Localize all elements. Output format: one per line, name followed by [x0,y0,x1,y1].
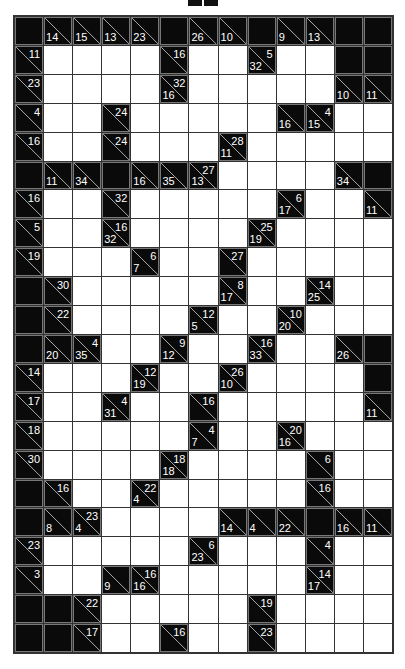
entry-cell[interactable] [102,508,130,536]
entry-cell[interactable] [335,364,363,392]
entry-cell[interactable] [131,422,159,450]
entry-cell[interactable] [131,306,159,334]
entry-cell[interactable] [335,190,363,218]
entry-cell[interactable] [160,566,188,594]
entry-cell[interactable] [189,219,217,247]
entry-cell[interactable] [277,248,305,276]
entry-cell[interactable] [131,393,159,421]
entry-cell[interactable] [277,277,305,305]
entry-cell[interactable] [189,595,217,623]
entry-cell[interactable] [44,133,72,161]
entry-cell[interactable] [248,162,276,190]
entry-cell[interactable] [277,46,305,74]
entry-cell[interactable] [44,566,72,594]
entry-cell[interactable] [219,480,247,508]
entry-cell[interactable] [131,75,159,103]
entry-cell[interactable] [131,219,159,247]
entry-cell[interactable] [248,104,276,132]
entry-cell[interactable] [248,566,276,594]
entry-cell[interactable] [44,46,72,74]
entry-cell[interactable] [335,566,363,594]
entry-cell[interactable] [335,480,363,508]
entry-cell[interactable] [335,624,363,652]
entry-cell[interactable] [277,335,305,363]
entry-cell[interactable] [131,277,159,305]
entry-cell[interactable] [306,219,334,247]
entry-cell[interactable] [44,104,72,132]
entry-cell[interactable] [335,393,363,421]
entry-cell[interactable] [131,104,159,132]
entry-cell[interactable] [102,248,130,276]
entry-cell[interactable] [160,537,188,565]
entry-cell[interactable] [364,537,392,565]
entry-cell[interactable] [189,46,217,74]
entry-cell[interactable] [44,364,72,392]
entry-cell[interactable] [364,422,392,450]
entry-cell[interactable] [277,133,305,161]
entry-cell[interactable] [335,595,363,623]
entry-cell[interactable] [102,451,130,479]
entry-cell[interactable] [160,277,188,305]
entry-cell[interactable] [306,46,334,74]
entry-cell[interactable] [335,422,363,450]
entry-cell[interactable] [219,46,247,74]
entry-cell[interactable] [44,393,72,421]
entry-cell[interactable] [219,219,247,247]
entry-cell[interactable] [306,335,334,363]
entry-cell[interactable] [160,248,188,276]
entry-cell[interactable] [160,508,188,536]
entry-cell[interactable] [131,133,159,161]
entry-cell[interactable] [160,219,188,247]
entry-cell[interactable] [248,537,276,565]
entry-cell[interactable] [335,537,363,565]
entry-cell[interactable] [189,248,217,276]
entry-cell[interactable] [73,75,101,103]
entry-cell[interactable] [189,75,217,103]
entry-cell[interactable] [189,277,217,305]
entry-cell[interactable] [131,624,159,652]
entry-cell[interactable] [131,335,159,363]
entry-cell[interactable] [44,219,72,247]
entry-cell[interactable] [306,364,334,392]
entry-cell[interactable] [73,306,101,334]
entry-cell[interactable] [219,190,247,218]
entry-cell[interactable] [73,46,101,74]
entry-cell[interactable] [160,595,188,623]
entry-cell[interactable] [102,480,130,508]
entry-cell[interactable] [102,277,130,305]
entry-cell[interactable] [102,46,130,74]
entry-cell[interactable] [189,508,217,536]
entry-cell[interactable] [306,595,334,623]
entry-cell[interactable] [219,451,247,479]
entry-cell[interactable] [73,566,101,594]
entry-cell[interactable] [248,422,276,450]
entry-cell[interactable] [364,624,392,652]
entry-cell[interactable] [44,422,72,450]
entry-cell[interactable] [248,306,276,334]
entry-cell[interactable] [364,133,392,161]
entry-cell[interactable] [102,624,130,652]
entry-cell[interactable] [219,75,247,103]
entry-cell[interactable] [102,306,130,334]
entry-cell[interactable] [306,422,334,450]
entry-cell[interactable] [335,219,363,247]
entry-cell[interactable] [335,248,363,276]
entry-cell[interactable] [364,277,392,305]
entry-cell[interactable] [364,248,392,276]
entry-cell[interactable] [248,277,276,305]
entry-cell[interactable] [248,248,276,276]
entry-cell[interactable] [219,595,247,623]
entry-cell[interactable] [160,422,188,450]
entry-cell[interactable] [160,133,188,161]
entry-cell[interactable] [73,190,101,218]
entry-cell[interactable] [277,162,305,190]
entry-cell[interactable] [306,133,334,161]
entry-cell[interactable] [189,566,217,594]
entry-cell[interactable] [248,393,276,421]
entry-cell[interactable] [160,190,188,218]
entry-cell[interactable] [335,451,363,479]
entry-cell[interactable] [335,104,363,132]
entry-cell[interactable] [364,595,392,623]
entry-cell[interactable] [189,190,217,218]
entry-cell[interactable] [219,624,247,652]
